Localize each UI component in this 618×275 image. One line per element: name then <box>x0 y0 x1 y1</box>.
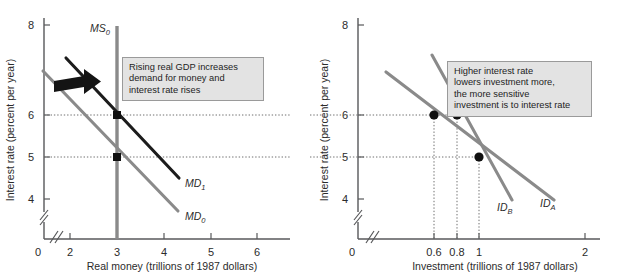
equilibrium-marker-5 <box>113 153 121 161</box>
x-ticklabel-2: 2 <box>67 246 73 258</box>
y-ticklabel-8-right: 8 <box>342 19 348 31</box>
panel-investment-demand: 8 6 5 4 0 0.6 0.8 1 2 Interest rate (per… <box>310 18 600 272</box>
x-axis-break <box>50 231 63 243</box>
equilibrium-marker-6 <box>113 111 121 119</box>
point-marker-1-5 <box>474 152 483 161</box>
shift-arrow-icon <box>54 69 101 94</box>
curve-label-md0: MD0 <box>185 210 206 225</box>
x-ticklabel-08: 0.8 <box>449 246 464 258</box>
y-ticklabel-6: 6 <box>28 109 34 121</box>
curve-label-ms0: MS0 <box>90 22 111 37</box>
y-ticklabel-4: 4 <box>28 193 34 205</box>
x-ticklabel-4: 4 <box>161 246 167 258</box>
x-ticklabel-06: 0.6 <box>426 246 441 258</box>
y-ticklabel-5: 5 <box>28 151 34 163</box>
origin-label-right: 0 <box>349 246 355 258</box>
x-ticklabel-5: 5 <box>208 246 214 258</box>
curve-label-md1: MD1 <box>185 177 206 192</box>
y-axis-title-right: Interest rate (percent per year) <box>318 59 330 201</box>
x-ticklabel-3: 3 <box>114 246 120 258</box>
annotation-investment-demand: Higher interest rate lowers investment m… <box>447 61 592 117</box>
annotation-money-market: Rising real GDP increases demand for mon… <box>122 57 264 101</box>
curve-label-idb: IDB <box>497 201 513 216</box>
x-axis-title-right: Investment (trillions of 1987 dollars) <box>412 260 578 272</box>
y-ticklabel-8: 8 <box>28 19 34 31</box>
x-axis-break-right <box>366 231 379 243</box>
x-ticklabel-2-right: 2 <box>582 246 588 258</box>
x-axis-title: Real money (trillions of 1987 dollars) <box>87 260 257 272</box>
y-axis-title: Interest rate (percent per year) <box>4 59 16 201</box>
point-marker-06-6 <box>429 110 438 119</box>
figure-canvas: 8 6 5 4 0 2 3 4 5 6 Interest rate (perce… <box>0 0 618 275</box>
origin-label: 0 <box>35 246 41 258</box>
x-ticklabel-1: 1 <box>476 246 482 258</box>
y-ticklabel-4-right: 4 <box>342 193 348 205</box>
economics-figure: 8 6 5 4 0 2 3 4 5 6 Interest rate (perce… <box>0 0 618 275</box>
x-ticklabel-6: 6 <box>254 246 260 258</box>
